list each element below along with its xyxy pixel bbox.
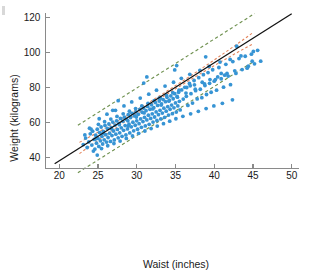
data-point bbox=[109, 139, 113, 143]
data-point bbox=[137, 122, 141, 126]
data-point bbox=[245, 66, 249, 70]
data-point bbox=[88, 126, 92, 130]
data-point bbox=[233, 69, 237, 73]
data-point bbox=[126, 124, 130, 128]
data-point bbox=[176, 95, 180, 99]
data-point bbox=[174, 110, 178, 114]
data-point bbox=[101, 142, 105, 146]
data-point bbox=[186, 104, 190, 108]
data-point bbox=[174, 117, 178, 121]
y-tick-label-40: 40 bbox=[29, 152, 41, 163]
data-point bbox=[251, 50, 255, 54]
data-point bbox=[208, 78, 212, 82]
data-point bbox=[134, 115, 138, 119]
data-point bbox=[136, 127, 140, 131]
plot-canvas: 20253035404550 406080100120 Waist (inche… bbox=[0, 0, 315, 275]
data-point bbox=[131, 134, 135, 138]
data-point bbox=[147, 92, 151, 96]
data-point bbox=[116, 99, 120, 103]
prediction-band-upper bbox=[78, 14, 255, 126]
data-point bbox=[121, 112, 125, 116]
data-point bbox=[97, 117, 101, 121]
data-point bbox=[219, 72, 223, 76]
data-point bbox=[138, 96, 142, 100]
data-point bbox=[151, 107, 155, 111]
x-axis-ticks: 20253035404550 bbox=[54, 164, 298, 182]
data-point bbox=[115, 115, 119, 119]
data-point bbox=[196, 109, 200, 113]
data-point bbox=[215, 88, 219, 92]
data-point bbox=[162, 106, 166, 110]
data-point bbox=[222, 85, 226, 89]
data-point bbox=[133, 123, 137, 127]
data-point bbox=[90, 143, 94, 147]
data-point bbox=[201, 73, 205, 77]
least-squares-fit-line bbox=[55, 14, 292, 164]
data-point bbox=[145, 118, 149, 122]
data-point bbox=[143, 129, 147, 133]
page-edge-artifact bbox=[2, 6, 5, 15]
data-point bbox=[140, 125, 144, 129]
x-axis-title: Waist (inches) bbox=[143, 258, 209, 270]
data-point bbox=[109, 117, 113, 121]
y-tick-label-120: 120 bbox=[24, 12, 41, 23]
data-point bbox=[220, 101, 224, 105]
data-point bbox=[188, 72, 192, 76]
data-point bbox=[173, 68, 177, 72]
data-point bbox=[105, 140, 109, 144]
data-point bbox=[106, 144, 110, 148]
data-point bbox=[181, 97, 185, 101]
data-point bbox=[160, 111, 164, 115]
scatter-plot-figure: 20253035404550 406080100120 Waist (inche… bbox=[0, 0, 315, 275]
data-point bbox=[164, 109, 168, 113]
data-point bbox=[155, 124, 159, 128]
data-point bbox=[229, 83, 233, 87]
data-point bbox=[188, 84, 192, 88]
data-point bbox=[250, 59, 254, 63]
data-point bbox=[219, 77, 223, 81]
data-point bbox=[217, 66, 221, 70]
x-tick-label-45: 45 bbox=[247, 170, 259, 181]
data-point bbox=[163, 84, 167, 88]
data-point bbox=[218, 60, 222, 64]
data-point bbox=[178, 108, 182, 112]
data-point bbox=[191, 101, 195, 105]
data-point bbox=[91, 149, 95, 153]
data-point bbox=[83, 133, 87, 137]
data-point bbox=[111, 108, 115, 112]
data-point bbox=[159, 117, 163, 121]
data-point bbox=[192, 79, 196, 83]
y-tick-label-100: 100 bbox=[24, 47, 41, 58]
data-point bbox=[147, 122, 151, 126]
data-point bbox=[171, 97, 175, 101]
data-point bbox=[175, 64, 179, 68]
data-point bbox=[103, 120, 107, 124]
data-point bbox=[184, 91, 188, 95]
data-point bbox=[168, 119, 172, 123]
data-point bbox=[204, 107, 208, 111]
x-tick-label-20: 20 bbox=[54, 170, 66, 181]
data-point bbox=[162, 122, 166, 126]
data-point bbox=[195, 97, 199, 101]
data-point bbox=[106, 136, 110, 140]
data-point bbox=[131, 120, 135, 124]
data-point bbox=[223, 73, 227, 77]
data-point bbox=[116, 128, 120, 132]
data-point bbox=[142, 81, 146, 85]
data-point bbox=[177, 99, 181, 103]
y-axis-ticks: 406080100120 bbox=[24, 12, 50, 163]
data-point bbox=[177, 88, 181, 92]
data-point bbox=[209, 90, 213, 94]
data-point bbox=[197, 76, 201, 80]
data-point bbox=[118, 139, 122, 143]
data-point bbox=[114, 132, 118, 136]
data-point bbox=[120, 134, 124, 138]
data-point bbox=[189, 92, 193, 96]
data-point bbox=[153, 115, 157, 119]
data-point bbox=[112, 142, 116, 146]
data-point bbox=[211, 68, 215, 72]
data-point bbox=[95, 153, 99, 157]
data-point bbox=[239, 54, 243, 58]
data-point bbox=[103, 124, 107, 128]
data-point bbox=[128, 131, 132, 135]
